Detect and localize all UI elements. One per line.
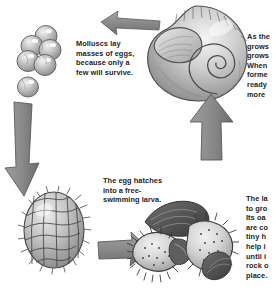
caption-egg-mass: Molluscs lay masses of eggs, because onl… — [76, 39, 134, 77]
adult-shell-illustration — [143, 2, 251, 106]
veliger-larva-illustration — [127, 196, 239, 292]
caption-adult-shell: As the grows grows When forme ready more — [247, 32, 270, 99]
mollusc-life-cycle-figure: Molluscs lay masses of eggs, because onl… — [0, 0, 276, 292]
trochophore-larva-illustration — [18, 186, 104, 290]
egg-mass-illustration — [14, 24, 76, 102]
arrow-veliger-to-shell — [186, 92, 236, 162]
caption-veliger-larva: The la to gro Its oa are co tiny h help … — [246, 194, 268, 280]
arrow-eggs-to-larva — [2, 100, 56, 198]
